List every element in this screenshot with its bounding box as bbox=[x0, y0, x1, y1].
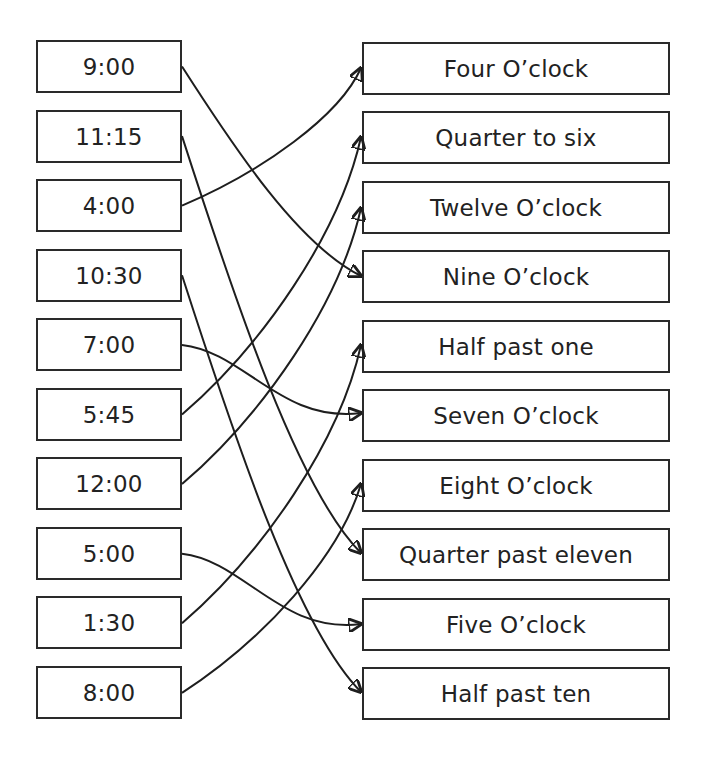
words-box-quarter-past-eleven[interactable]: Quarter past eleven bbox=[362, 528, 670, 581]
arrow-group bbox=[182, 67, 361, 693]
words-box-half-past-ten[interactable]: Half past ten bbox=[362, 667, 670, 720]
words-box-four-oclock[interactable]: Four O’clock bbox=[362, 42, 670, 95]
connection-arrow bbox=[182, 554, 361, 625]
time-box-1115[interactable]: 11:15 bbox=[36, 110, 182, 163]
time-label: 4:00 bbox=[83, 193, 135, 219]
time-label: 8:00 bbox=[83, 680, 135, 706]
connection-arrow bbox=[182, 275, 361, 692]
words-label: Four O’clock bbox=[444, 56, 589, 82]
time-box-0130[interactable]: 1:30 bbox=[36, 596, 182, 649]
time-label: 11:15 bbox=[75, 124, 142, 150]
time-box-0900[interactable]: 9:00 bbox=[36, 40, 182, 93]
words-box-quarter-to-six[interactable]: Quarter to six bbox=[362, 111, 670, 164]
connection-arrow bbox=[182, 208, 361, 484]
time-box-1030[interactable]: 10:30 bbox=[36, 249, 182, 302]
time-box-1200[interactable]: 12:00 bbox=[36, 457, 182, 510]
words-label: Nine O’clock bbox=[443, 264, 590, 290]
time-label: 10:30 bbox=[75, 263, 142, 289]
connection-arrow bbox=[182, 136, 361, 553]
words-box-nine-oclock[interactable]: Nine O’clock bbox=[362, 250, 670, 303]
words-label: Quarter past eleven bbox=[399, 542, 633, 568]
connection-arrow bbox=[182, 67, 361, 277]
connection-arrow bbox=[182, 345, 361, 414]
words-label: Half past one bbox=[438, 334, 594, 360]
words-box-half-past-one[interactable]: Half past one bbox=[362, 320, 670, 373]
words-box-five-oclock[interactable]: Five O’clock bbox=[362, 598, 670, 651]
time-label: 5:45 bbox=[83, 402, 135, 428]
time-label: 7:00 bbox=[83, 332, 135, 358]
connection-arrow bbox=[182, 68, 361, 206]
time-box-0800[interactable]: 8:00 bbox=[36, 666, 182, 719]
words-label: Eight O’clock bbox=[439, 473, 593, 499]
connection-arrow bbox=[182, 137, 361, 415]
words-label: Five O’clock bbox=[446, 612, 586, 638]
words-label: Seven O’clock bbox=[433, 403, 599, 429]
time-label: 5:00 bbox=[83, 541, 135, 567]
words-box-seven-oclock[interactable]: Seven O’clock bbox=[362, 389, 670, 442]
time-label: 9:00 bbox=[83, 54, 135, 80]
time-label: 12:00 bbox=[75, 471, 142, 497]
words-label: Twelve O’clock bbox=[430, 195, 602, 221]
words-box-twelve-oclock[interactable]: Twelve O’clock bbox=[362, 181, 670, 234]
time-box-0545[interactable]: 5:45 bbox=[36, 388, 182, 441]
words-label: Quarter to six bbox=[435, 125, 596, 151]
connection-arrow bbox=[182, 345, 361, 623]
words-box-eight-oclock[interactable]: Eight O’clock bbox=[362, 459, 670, 512]
words-label: Half past ten bbox=[441, 681, 592, 707]
connection-arrow bbox=[182, 484, 361, 693]
time-box-0400[interactable]: 4:00 bbox=[36, 179, 182, 232]
time-label: 1:30 bbox=[83, 610, 135, 636]
time-box-0500[interactable]: 5:00 bbox=[36, 527, 182, 580]
time-box-0700[interactable]: 7:00 bbox=[36, 318, 182, 371]
